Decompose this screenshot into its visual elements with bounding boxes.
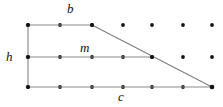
- lattice-dot: [181, 55, 185, 59]
- vertex-top-left: [26, 23, 30, 27]
- label-midsegment-m: m: [80, 41, 89, 54]
- vertex-dots: [26, 23, 214, 89]
- lattice-dot: [210, 55, 214, 59]
- label-height-h: h: [6, 50, 13, 63]
- figure-canvas: [0, 0, 223, 107]
- label-bottom-base-c: c: [118, 90, 124, 103]
- lattice-dot: [210, 23, 214, 27]
- vertex-mid-left: [26, 55, 30, 59]
- lattice-dot-grid: [26, 23, 214, 89]
- lattice-dot: [150, 23, 154, 27]
- vertex-mid-right: [150, 55, 154, 59]
- lattice-dot: [181, 23, 185, 27]
- lattice-dot: [121, 23, 125, 27]
- label-top-base-b: b: [67, 2, 74, 15]
- vertex-bottom-right: [210, 85, 215, 90]
- trapezoid-midsegment-figure: b h m c: [0, 0, 223, 107]
- vertex-bottom-left: [26, 85, 30, 89]
- vertex-top-right: [90, 23, 94, 27]
